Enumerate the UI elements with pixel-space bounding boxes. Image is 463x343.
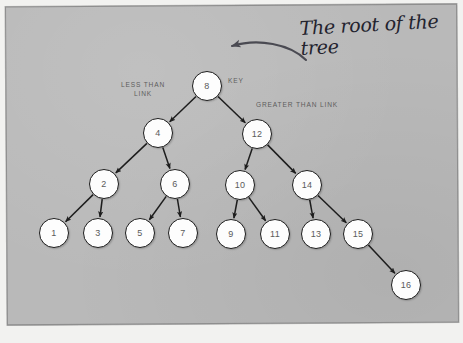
tree-edge-10-to-9: [234, 200, 237, 218]
tree-node-10: 10: [225, 170, 255, 200]
key-label: KEY: [228, 76, 244, 85]
tree-node-16: 16: [391, 270, 421, 300]
tree-edge-15-to-16: [368, 245, 395, 273]
tree-node-6: 6: [160, 169, 190, 199]
tree-edge-12-to-10: [245, 148, 252, 169]
tree-node-11: 11: [260, 219, 290, 249]
tree-node-14: 14: [292, 170, 322, 200]
root-annotation-handwriting: The root of the tree: [299, 10, 451, 58]
tree-node-3: 3: [83, 218, 113, 248]
tree-edge-14-to-15: [318, 196, 346, 223]
tree-edge-2-to-1: [66, 195, 94, 222]
tree-edge-2-to-3: [100, 199, 102, 217]
tree-edge-6-to-5: [149, 196, 166, 219]
greater-than-link-label: GREATER THAN LINK: [256, 100, 338, 109]
tree-node-7: 7: [168, 218, 198, 248]
diagram-page: 84122610141357911131516 LESS THAN LINK K…: [0, 0, 463, 343]
tree-edge-10-to-11: [249, 197, 266, 220]
tree-edge-8-to-4: [170, 97, 196, 122]
tree-node-1: 1: [39, 218, 69, 248]
tree-node-13: 13: [301, 219, 331, 249]
tree-edge-4-to-2: [116, 143, 147, 173]
tree-edge-6-to-7: [177, 199, 180, 217]
tree-edge-12-to-14: [268, 145, 296, 174]
tree-edge-8-to-12: [218, 97, 245, 123]
less-than-link-label: LESS THAN LINK: [110, 80, 176, 98]
tree-edge-14-to-13: [310, 200, 313, 218]
tree-node-2: 2: [89, 169, 119, 199]
tree-node-9: 9: [216, 219, 246, 249]
tree-edge-4-to-6: [163, 147, 170, 168]
annotation-arrow-icon: [232, 42, 306, 60]
tree-node-8: 8: [192, 71, 222, 101]
tree-node-12: 12: [242, 119, 272, 149]
tree-node-5: 5: [125, 218, 155, 248]
tree-node-15: 15: [343, 219, 373, 249]
tree-node-4: 4: [143, 118, 173, 148]
